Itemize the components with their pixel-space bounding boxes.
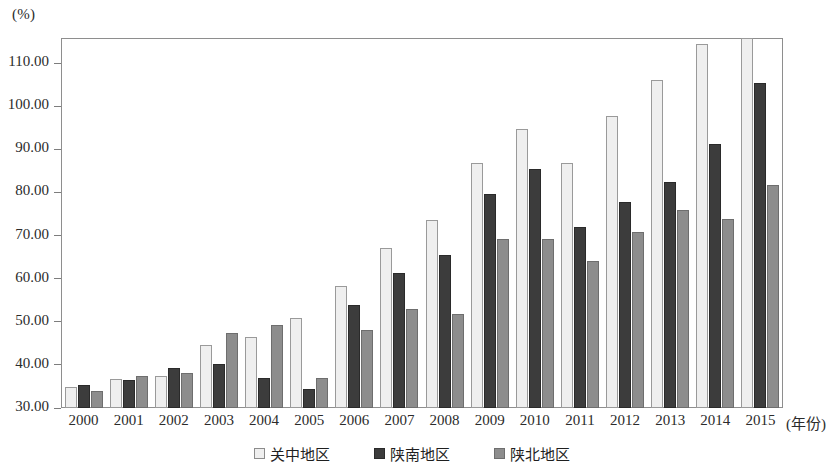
y-axis-tick-mark [54, 63, 61, 64]
y-axis-unit-label: (%) [12, 6, 35, 23]
x-axis-tick-label: 2011 [557, 412, 602, 434]
bar [574, 227, 586, 408]
legend-item[interactable]: 陕北地区 [494, 443, 570, 464]
y-axis-tick-label: 100.00 [8, 96, 49, 113]
y-axis-tick-label: 40.00 [15, 355, 49, 372]
bar [722, 219, 734, 408]
bar [587, 261, 599, 408]
legend-label: 关中地区 [270, 443, 330, 464]
legend-swatch-icon [494, 448, 505, 459]
bar [181, 373, 193, 408]
x-axis-tick-label: 2014 [693, 412, 738, 434]
bar [529, 169, 541, 408]
y-axis-tick-label: 110.00 [8, 53, 49, 70]
bar [426, 220, 438, 408]
legend-item[interactable]: 陕南地区 [374, 443, 450, 464]
bar-group [332, 38, 377, 408]
bar-group [377, 38, 422, 408]
y-axis-tick-label: 70.00 [15, 226, 49, 243]
bar [471, 163, 483, 408]
bar-group [738, 38, 783, 408]
x-axis-tick-label: 2004 [242, 412, 287, 434]
x-axis-tick-label: 2009 [467, 412, 512, 434]
bar-group [242, 38, 287, 408]
x-axis-tick-label: 2002 [151, 412, 196, 434]
bar [561, 163, 573, 408]
y-axis-tick-mark [54, 192, 61, 193]
bar-group [422, 38, 467, 408]
x-axis-tick-label: 2001 [106, 412, 151, 434]
x-axis-tick-label: 2010 [512, 412, 557, 434]
x-axis-tick-labels: 2000200120022003200420052006200720082009… [61, 412, 783, 434]
y-axis-tick-mark [54, 364, 61, 365]
y-axis-tick-label: 90.00 [15, 139, 49, 156]
bar-group [557, 38, 602, 408]
bar [406, 309, 418, 408]
bar [136, 376, 148, 408]
legend-label: 陕南地区 [390, 443, 450, 464]
x-axis-title: (年份) [786, 412, 826, 433]
bars-container [61, 38, 783, 408]
y-axis-tick-mark [54, 106, 61, 107]
legend-swatch-icon [374, 448, 385, 459]
bar [632, 232, 644, 408]
bar-group [512, 38, 557, 408]
bar [361, 330, 373, 408]
y-axis-tick-label: 50.00 [15, 312, 49, 329]
bar [303, 389, 315, 408]
bar [542, 239, 554, 408]
bar [380, 248, 392, 408]
x-axis-tick-label: 2005 [287, 412, 332, 434]
bar-group [603, 38, 648, 408]
x-axis-tick-label: 2000 [61, 412, 106, 434]
bar-group [467, 38, 512, 408]
bar-group [106, 38, 151, 408]
y-axis-tick-mark [54, 278, 61, 279]
bar [271, 325, 283, 408]
bar-group [287, 38, 332, 408]
bar-group [648, 38, 693, 408]
bar [754, 83, 766, 408]
bar [767, 185, 779, 408]
y-axis-tick-mark [54, 149, 61, 150]
bar [168, 368, 180, 408]
y-axis-tick-mark [54, 408, 61, 409]
legend-item[interactable]: 关中地区 [254, 443, 330, 464]
bar [606, 116, 618, 408]
bar [651, 80, 663, 408]
bar [664, 182, 676, 408]
bar [316, 378, 328, 408]
bar-group [61, 38, 106, 408]
bar [335, 286, 347, 408]
bar [516, 129, 528, 408]
bar [393, 273, 405, 408]
bar [452, 314, 464, 408]
y-axis-tick-mark [54, 235, 61, 236]
bar [439, 255, 451, 408]
y-axis-tick-mark [54, 321, 61, 322]
x-axis-tick-label: 2008 [422, 412, 467, 434]
bar [78, 385, 90, 408]
bar [497, 239, 509, 408]
bar [619, 202, 631, 408]
x-axis-tick-label: 2013 [648, 412, 693, 434]
x-axis-tick-label: 2007 [377, 412, 422, 434]
x-axis-tick-label: 2012 [603, 412, 648, 434]
bar-group [693, 38, 738, 408]
bar [65, 387, 77, 408]
y-axis-tick-label: 80.00 [15, 182, 49, 199]
bar [290, 318, 302, 408]
x-axis-tick-label: 2006 [332, 412, 377, 434]
x-axis-tick-label: 2003 [196, 412, 241, 434]
x-axis-tick-label: 2015 [738, 412, 783, 434]
bar [348, 305, 360, 408]
bar [110, 379, 122, 408]
legend-swatch-icon [254, 448, 265, 459]
bar [213, 364, 225, 408]
bar [484, 194, 496, 408]
chart-legend: 关中地区陕南地区陕北地区 [0, 443, 824, 464]
bar-group [151, 38, 196, 408]
bar [741, 38, 753, 408]
bar [226, 333, 238, 408]
